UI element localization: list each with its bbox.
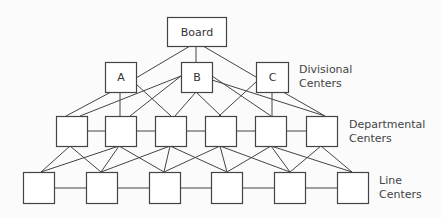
node-d5: [256, 117, 287, 147]
node-l2: [87, 173, 118, 204]
node-l6: [338, 173, 369, 204]
connector-line: [164, 146, 170, 172]
divisional-label-line1: Divisional: [299, 63, 352, 77]
connector-line: [175, 92, 196, 116]
connector-line: [196, 92, 221, 116]
divisional-centers-label: Divisional Centers: [299, 63, 352, 91]
line-label-line2: Centers: [379, 188, 422, 202]
connector-line: [101, 146, 170, 172]
node-d6: [307, 117, 338, 147]
departmental-label-line1: Departmental: [349, 118, 425, 132]
connector-line: [220, 146, 290, 172]
node-l3: [150, 173, 181, 204]
connector-line: [271, 146, 352, 172]
center-boxes: BoardABC: [24, 18, 369, 204]
connector-line: [227, 146, 271, 172]
connector-line: [283, 92, 325, 116]
node-d2: [106, 117, 137, 147]
connector-line: [219, 82, 256, 116]
node-board: Board: [168, 18, 227, 47]
connector-line: [70, 146, 101, 172]
connector-line: [41, 146, 70, 172]
connector-line: [290, 146, 321, 172]
node-l4: [212, 173, 243, 204]
line-centers-label: Line Centers: [379, 174, 422, 202]
node-l1: [24, 173, 55, 204]
node-label: A: [117, 71, 125, 84]
connector-line: [164, 146, 220, 172]
connector-line: [130, 76, 181, 116]
node-label: Board: [181, 26, 213, 39]
node-l5: [275, 173, 306, 204]
connector-line: [41, 146, 119, 172]
connector-line: [136, 84, 171, 116]
node-b: B: [182, 63, 213, 93]
node-label: B: [193, 71, 201, 84]
line-label-line1: Line: [379, 174, 422, 188]
connector-line: [220, 146, 227, 172]
node-label: C: [269, 71, 277, 84]
departmental-label-line2: Centers: [349, 132, 425, 146]
node-d3: [156, 117, 187, 147]
org-hierarchy-diagram: BoardABC: [0, 0, 442, 218]
node-c: C: [257, 63, 289, 93]
connector-line: [321, 146, 352, 172]
divisional-label-line2: Centers: [299, 77, 352, 91]
departmental-centers-label: Departmental Centers: [349, 118, 425, 146]
node-d1: [57, 117, 88, 147]
connector-line: [119, 146, 164, 172]
node-d4: [206, 117, 237, 147]
connector-line: [170, 146, 227, 172]
node-a: A: [106, 63, 137, 93]
